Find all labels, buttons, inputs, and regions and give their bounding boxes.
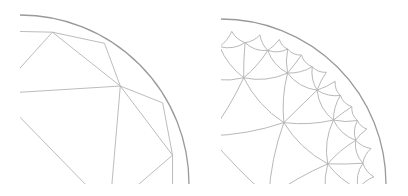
klein-model-panel: Klein model (geodesics as straight chord… [0, 0, 204, 196]
geodesic-arc [354, 121, 357, 141]
geodesic-arc [220, 31, 232, 46]
geodesic-arc [363, 163, 374, 177]
geodesic-arc [288, 55, 302, 73]
geodesic-arc [268, 50, 288, 73]
geodesic-arc [335, 81, 340, 95]
geodesic-arc [357, 121, 366, 130]
disk-boundary [0, 15, 189, 196]
geodesic-arc [283, 73, 287, 123]
poincare-disk-panel: Poincaré disk model (geodesics as circul… [204, 0, 408, 196]
geodesic-arc [328, 163, 363, 164]
geodesic-arc [333, 120, 355, 140]
geodesic-edge [163, 103, 173, 155]
geodesic-arc [356, 140, 371, 148]
klein-tiling-drawing [0, 0, 204, 196]
geodesic-arc [356, 129, 367, 140]
geodesic-arc [333, 107, 351, 120]
geodesic-arc [279, 39, 287, 49]
tiling-edges [0, 31, 173, 196]
geodesic-arc [288, 73, 318, 90]
geodesic-arc [340, 95, 351, 106]
geodesic-arc [244, 78, 284, 123]
crop-mask-left [204, 0, 221, 196]
geodesic-arc [284, 90, 317, 122]
geodesic-arc [286, 49, 287, 73]
tiling-edges [204, 31, 374, 196]
geodesic-arc [333, 95, 340, 120]
geodesic-arc [328, 140, 356, 163]
geodesic-arc [245, 35, 260, 43]
poincare-tiling-drawing [204, 0, 408, 196]
geodesic-arc [288, 49, 302, 55]
geodesic-arc [244, 43, 245, 78]
geodesic-arc [363, 149, 371, 164]
geodesic-arc [260, 35, 268, 50]
geodesic-arc [352, 107, 358, 121]
crop-mask-bottom [204, 184, 408, 196]
geodesic-arc [326, 120, 333, 164]
crop-mask-left [0, 0, 20, 196]
geodesic-arc [220, 47, 244, 78]
geodesic-arc [268, 39, 280, 50]
geodesic-arc [288, 67, 313, 73]
disk-boundary [204, 19, 386, 196]
geodesic-arc [232, 31, 245, 42]
geodesic-arc [301, 55, 312, 67]
geodesic-arc [284, 123, 328, 164]
geodesic-arc [268, 49, 288, 52]
geodesic-arc [312, 67, 326, 73]
geodesic-arc [284, 120, 334, 124]
geodesic-arc [244, 73, 288, 79]
geodesic-arc [244, 50, 268, 77]
crop-mask-bottom [0, 184, 204, 196]
geodesic-arc [333, 120, 357, 121]
geodesic-edge [110, 86, 121, 196]
geodesic-arc [317, 90, 333, 120]
